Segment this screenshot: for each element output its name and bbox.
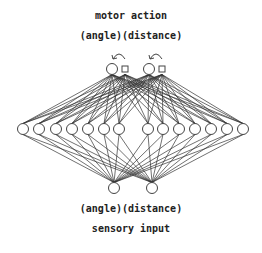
connection-line — [114, 135, 211, 183]
hidden-unit — [174, 124, 185, 135]
sensory-input-title: sensory input — [0, 223, 262, 234]
connection-line — [23, 75, 162, 124]
connection-line — [149, 75, 211, 124]
connection-line — [148, 135, 152, 183]
hidden-unit — [222, 124, 233, 135]
hidden-unit — [18, 124, 29, 135]
connection-line — [152, 135, 195, 183]
connection-line — [114, 135, 243, 183]
connection-line — [88, 135, 152, 183]
connection-line — [152, 135, 211, 183]
connection-line — [23, 135, 114, 183]
hidden-unit — [158, 124, 169, 135]
recurrent-unit-square — [122, 66, 128, 72]
output-unit — [144, 64, 155, 75]
connection-line — [56, 135, 152, 183]
connection-line — [112, 75, 243, 124]
recurrent-unit-square — [159, 66, 165, 72]
connection-line — [72, 75, 112, 124]
connection-line — [39, 75, 125, 124]
connection-line — [72, 135, 114, 183]
neural-network-diagram — [0, 0, 262, 253]
input-unit — [109, 183, 120, 194]
connection-line — [114, 135, 119, 183]
connection-line — [114, 135, 195, 183]
hidden-unit — [190, 124, 201, 135]
connection-line — [162, 75, 195, 124]
hidden-unit — [238, 124, 249, 135]
input-labels: (angle)(distance) — [0, 203, 262, 214]
hidden-unit — [51, 124, 62, 135]
connection-line — [72, 135, 152, 183]
hidden-unit — [99, 124, 110, 135]
hidden-unit — [83, 124, 94, 135]
hidden-unit — [143, 124, 154, 135]
output-unit — [107, 64, 118, 75]
hidden-unit — [114, 124, 125, 135]
connection-line — [39, 135, 152, 183]
connection-line — [39, 135, 114, 183]
hidden-unit — [34, 124, 45, 135]
hidden-unit — [67, 124, 78, 135]
input-unit — [147, 183, 158, 194]
hidden-unit — [206, 124, 217, 135]
